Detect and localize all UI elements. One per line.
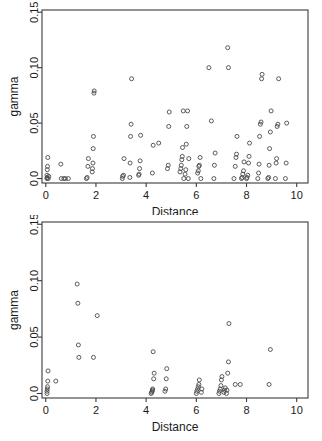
data-point: [152, 377, 156, 381]
x-tick-label: 4: [143, 404, 149, 416]
data-point: [260, 72, 264, 76]
y-tick-label: 0.15: [28, 2, 40, 23]
data-point: [207, 66, 211, 70]
y-axis-title: gamma: [7, 290, 21, 330]
data-point: [150, 171, 154, 175]
x-tick-label: 6: [193, 404, 199, 416]
data-point: [46, 155, 50, 159]
data-point: [274, 161, 278, 165]
data-point: [91, 134, 95, 138]
data-point: [213, 151, 217, 155]
data-point: [209, 119, 213, 123]
data-point: [130, 77, 134, 81]
y-tick-label: 0.10: [28, 270, 40, 291]
plot-frame: [42, 222, 308, 398]
x-tick-label: 4: [143, 189, 149, 201]
data-point: [46, 369, 50, 373]
scatter-plot-figure: 02468100.00.050.100.15Distancegamma 0246…: [0, 0, 322, 441]
data-point: [138, 167, 142, 171]
x-tick-label: 2: [93, 404, 99, 416]
data-point: [277, 77, 281, 81]
data-point: [77, 355, 81, 359]
data-point: [122, 157, 126, 161]
data-point: [183, 172, 187, 176]
data-point: [199, 177, 203, 181]
data-point: [181, 109, 185, 113]
y-tick-label: 0.05: [28, 112, 40, 133]
data-point: [268, 130, 272, 134]
data-point: [167, 110, 171, 114]
chart-panel-top: 02468100.00.050.100.15Distancegamma: [0, 0, 322, 215]
data-point: [257, 171, 261, 175]
data-point: [86, 164, 90, 168]
data-point: [260, 77, 264, 81]
y-axis-title: gamma: [7, 76, 21, 116]
data-point: [267, 382, 271, 386]
data-point: [248, 141, 252, 145]
data-point: [284, 161, 288, 165]
data-point: [258, 134, 262, 138]
data-point: [226, 46, 230, 50]
data-points-group: [45, 282, 272, 395]
y-tick-label: 0.05: [28, 326, 40, 347]
data-point: [268, 347, 272, 351]
y-tick-label: 0.0: [28, 386, 40, 401]
data-point: [182, 177, 186, 181]
data-point: [165, 367, 169, 371]
x-tick-label: 0: [43, 404, 49, 416]
data-point: [257, 162, 261, 166]
data-point: [76, 343, 80, 347]
x-axis-title: Distance: [152, 420, 199, 434]
data-point: [139, 133, 143, 137]
data-point: [269, 109, 273, 113]
scatter-chart-bottom: 02468100.00.050.100.15Distancegamma: [0, 215, 322, 441]
data-point: [233, 382, 237, 386]
data-point: [129, 134, 133, 138]
x-tick-label: 2: [93, 189, 99, 201]
data-point: [91, 161, 95, 165]
data-point: [76, 301, 80, 305]
data-point: [226, 371, 230, 375]
data-point: [212, 163, 216, 167]
data-point: [226, 66, 230, 70]
data-point: [227, 322, 231, 326]
data-point: [232, 177, 236, 181]
x-tick-label: 8: [243, 189, 249, 201]
data-point: [151, 350, 155, 354]
chart-panel-bottom: 02468100.00.050.100.15Distancegamma: [0, 215, 322, 441]
data-point: [226, 360, 230, 364]
data-point: [187, 157, 191, 161]
data-point: [46, 379, 50, 383]
data-point: [247, 154, 251, 158]
data-point: [267, 163, 271, 167]
scatter-chart-top: 02468100.00.050.100.15Distancegamma: [0, 0, 322, 215]
data-point: [285, 121, 289, 125]
x-tick-label: 0: [43, 189, 49, 201]
data-point: [275, 157, 279, 161]
data-point: [184, 168, 188, 172]
data-point: [152, 371, 156, 375]
x-axis-title: Distance: [152, 205, 199, 215]
data-point: [283, 177, 287, 181]
x-tick-label: 10: [291, 189, 303, 201]
data-point: [164, 377, 168, 381]
data-point: [95, 314, 99, 318]
y-tick-label: 0.0: [28, 171, 40, 186]
plot-frame: [42, 10, 308, 183]
y-tick-label: 0.15: [28, 215, 40, 235]
data-point: [54, 379, 58, 383]
data-point: [59, 162, 63, 166]
data-point: [86, 157, 90, 161]
data-point: [128, 175, 132, 179]
data-point: [212, 177, 216, 181]
x-tick-label: 8: [243, 404, 249, 416]
data-point: [151, 143, 155, 147]
data-point: [242, 160, 246, 164]
data-points-group: [45, 46, 289, 181]
data-point: [185, 124, 189, 128]
data-point: [138, 159, 142, 163]
y-tick-label: 0.10: [28, 57, 40, 78]
data-point: [233, 164, 237, 168]
data-point: [197, 378, 201, 382]
data-point: [181, 146, 185, 150]
